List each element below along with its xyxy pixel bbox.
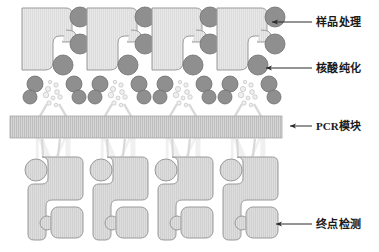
waste-bead-right	[196, 76, 212, 92]
outlet-bead-left	[23, 90, 37, 104]
sample-inlet-bead	[265, 7, 285, 27]
waste-bead-left	[92, 76, 108, 92]
waste-bead-right	[261, 76, 277, 92]
outlet-bead-right	[137, 90, 151, 104]
purification-bead	[183, 55, 203, 75]
purification-bead	[248, 55, 268, 75]
label-nucleic-acid-purification: 核酸纯化	[316, 61, 362, 74]
pcr-module-bar	[10, 116, 282, 138]
waste-bead-left	[157, 76, 173, 92]
label-endpoint-detection: 终点检测	[316, 217, 362, 230]
detection-chamber	[51, 207, 83, 238]
outlet-bead-right	[267, 90, 281, 104]
detection-chamber	[116, 207, 148, 238]
outlet-bead-right	[72, 90, 86, 104]
lower-inlet-chamber	[155, 159, 177, 181]
outlet-bead-right	[202, 90, 216, 104]
label-sample-processing: 样品处理	[316, 15, 362, 28]
detection-chamber	[246, 207, 278, 238]
label-pcr-module: PCR模块	[316, 119, 362, 132]
purification-bead	[53, 55, 73, 75]
lower-inlet-chamber	[220, 159, 242, 181]
lower-inlet-chamber	[90, 159, 112, 181]
inlet-line-left	[237, 138, 238, 156]
inlet-line-left	[107, 138, 108, 156]
pcr-module-rect	[10, 116, 282, 138]
inlet-line-left	[42, 138, 43, 156]
workflow-diagram: M M M M	[0, 0, 379, 252]
outlet-bead-left	[153, 90, 167, 104]
waste-bead-right	[66, 76, 82, 92]
lower-inlet-chamber	[25, 159, 47, 181]
diagram-canvas: M M M M	[0, 0, 379, 252]
outlet-bead-left	[218, 90, 232, 104]
reagent-bead	[265, 34, 285, 54]
inlet-line-left	[172, 138, 173, 156]
waste-bead-left	[27, 76, 43, 92]
detection-chamber	[181, 207, 213, 238]
waste-bead-left	[222, 76, 238, 92]
purification-bead	[118, 55, 138, 75]
outlet-bead-left	[88, 90, 102, 104]
waste-bead-right	[131, 76, 147, 92]
